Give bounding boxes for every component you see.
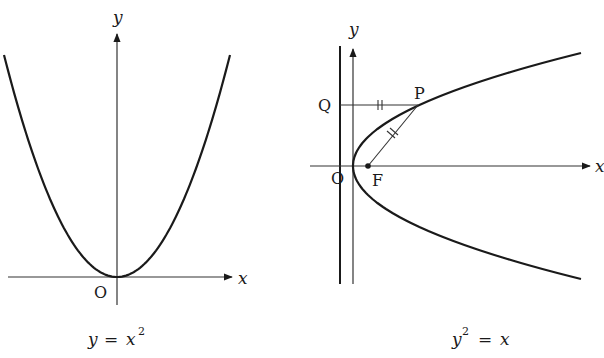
focus-label: F — [372, 171, 383, 190]
caption-equals: = — [104, 329, 118, 349]
caption-x: x — [126, 329, 136, 349]
left-x-axis-label: x — [238, 268, 248, 288]
left-origin-label: O — [94, 283, 107, 302]
caption-exponent: 2 — [138, 325, 145, 338]
left-diagram: y x O y = x 2 — [4, 7, 248, 349]
point-p-label: P — [414, 84, 425, 103]
caption-y: y — [87, 329, 98, 349]
right-x-axis-label: x — [595, 156, 604, 176]
left-y-axis-label: y — [112, 7, 123, 27]
right-origin-label: O — [331, 169, 344, 188]
focus-point — [365, 163, 371, 169]
parabola-diagrams: y x O y = x 2 y x O F P Q — [0, 0, 604, 358]
left-caption: y = x 2 — [87, 325, 145, 349]
right-caption: y 2 = x — [451, 325, 510, 349]
pf-equal-tick-marks — [387, 128, 398, 138]
right-y-axis-label: y — [348, 19, 359, 39]
segment-pf — [368, 105, 418, 166]
caption-y: y — [451, 329, 462, 349]
point-q-label: Q — [318, 96, 331, 115]
right-diagram: y x O F P Q y 2 = x — [310, 19, 604, 349]
caption-exponent: 2 — [462, 325, 469, 338]
caption-equals: = — [478, 329, 492, 349]
caption-x: x — [500, 329, 510, 349]
